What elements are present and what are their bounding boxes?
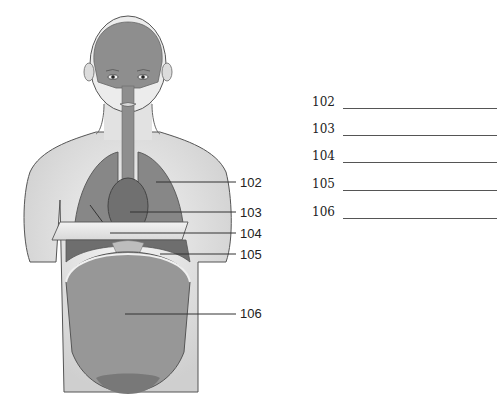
answer-blank[interactable] [343, 190, 497, 191]
answer-blank[interactable] [343, 162, 497, 163]
answer-number: 102 [312, 95, 335, 109]
answer-number: 106 [312, 205, 335, 219]
answer-row-105: 105 [312, 177, 497, 193]
answer-blank[interactable] [343, 135, 497, 136]
answer-number: 105 [312, 177, 335, 191]
callout-102: 102 [240, 176, 262, 189]
answer-number: 103 [312, 122, 335, 136]
abdominopelvic-cavity [66, 252, 190, 394]
diaphragm-plane [52, 222, 188, 240]
answer-blank[interactable] [343, 218, 497, 219]
callout-104: 104 [240, 227, 262, 240]
callout-103: 103 [240, 206, 262, 219]
callout-105: 105 [240, 248, 262, 261]
answer-blank[interactable] [343, 108, 497, 109]
answer-row-104: 104 [312, 149, 497, 165]
answer-row-102: 102 [312, 95, 497, 111]
answer-number: 104 [312, 149, 335, 163]
callout-106: 106 [240, 307, 262, 320]
answer-row-106: 106 [312, 205, 497, 221]
answer-row-103: 103 [312, 122, 497, 138]
body-cavities-illustration [0, 0, 504, 401]
anatomy-figure: 102 103 104 105 106 [0, 0, 504, 401]
